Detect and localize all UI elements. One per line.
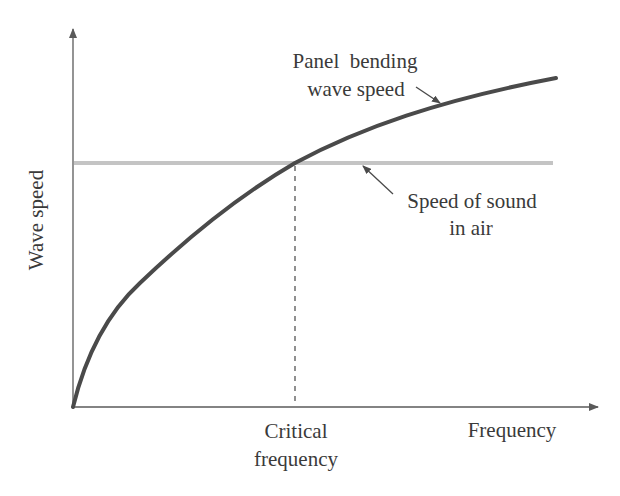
x-axis-label: Frequency bbox=[468, 418, 557, 442]
critical-label-line1: Critical bbox=[265, 419, 328, 443]
bending-label-arrow bbox=[416, 87, 440, 103]
sound-label-line2: in air bbox=[449, 216, 493, 240]
bending-label-line1: Panel bending bbox=[293, 49, 418, 73]
wave-speed-diagram: Wave speed Panel bending wave speed Spee… bbox=[0, 0, 620, 496]
bending-wave-speed-curve bbox=[73, 78, 556, 407]
sound-label-arrow bbox=[363, 166, 393, 194]
y-axis-label: Wave speed bbox=[24, 169, 48, 270]
critical-label-line2: frequency bbox=[254, 447, 338, 471]
sound-label-line1: Speed of sound bbox=[407, 189, 537, 213]
bending-label-line2: wave speed bbox=[307, 77, 405, 101]
